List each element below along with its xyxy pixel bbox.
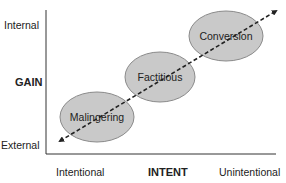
diagram-canvas: Malingering Factitious Conversion [0, 0, 286, 183]
region-malingering: Malingering [60, 92, 134, 142]
factitious-label: Factitious [138, 71, 183, 83]
region-conversion: Conversion [189, 11, 263, 61]
malingering-label: Malingering [70, 111, 124, 123]
conversion-label: Conversion [199, 30, 252, 42]
region-factitious: Factitious [125, 52, 195, 102]
